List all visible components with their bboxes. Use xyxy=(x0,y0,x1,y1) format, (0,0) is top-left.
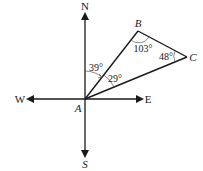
bearing-diagram: N S W E A B C 39° 29° 103° 48° xyxy=(0,0,203,171)
angle-103-label: 103° xyxy=(134,43,153,54)
point-C-label: C xyxy=(189,51,197,63)
point-A-label: A xyxy=(74,102,82,114)
angle-48-label: 48° xyxy=(159,51,173,62)
west-label: W xyxy=(15,93,26,105)
arc-BCA xyxy=(174,51,175,62)
east-label: E xyxy=(145,93,152,105)
south-label: S xyxy=(82,158,88,170)
arc-ABC xyxy=(131,37,149,43)
point-B-label: B xyxy=(135,17,142,29)
angle-39-label: 39° xyxy=(89,62,103,73)
north-label: N xyxy=(81,0,89,12)
angle-29-label: 29° xyxy=(108,73,122,84)
